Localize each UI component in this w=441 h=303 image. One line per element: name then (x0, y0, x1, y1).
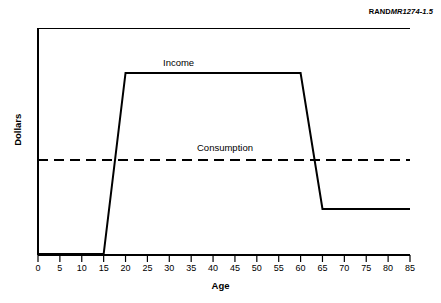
x-axis-title: Age (0, 281, 441, 291)
x-tick-label: 35 (180, 264, 202, 273)
x-tick-label: 20 (115, 264, 137, 273)
x-tick-label: 50 (246, 264, 268, 273)
series-label-consumption: Consumption (197, 143, 253, 153)
x-tick-label: 30 (158, 264, 180, 273)
x-tick-label: 0 (27, 264, 49, 273)
x-tick-label: 40 (202, 264, 224, 273)
x-tick-label: 60 (290, 264, 312, 273)
x-tick-label: 25 (136, 264, 158, 273)
figure-container: RANDMR1274-1.5 (0, 0, 441, 303)
x-tick-label: 55 (268, 264, 290, 273)
x-tick-label: 70 (333, 264, 355, 273)
x-tick-label: 10 (71, 264, 93, 273)
x-axis-ticks (38, 255, 410, 262)
x-tick-label: 65 (311, 264, 333, 273)
x-tick-label: 80 (377, 264, 399, 273)
y-axis-title: Dollars (13, 100, 23, 160)
x-tick-label: 45 (224, 264, 246, 273)
x-tick-label: 15 (93, 264, 115, 273)
x-tick-label: 5 (49, 264, 71, 273)
series-label-income: Income (163, 58, 194, 68)
x-tick-label: 75 (355, 264, 377, 273)
series-income (38, 73, 410, 254)
x-tick-label: 85 (399, 264, 421, 273)
